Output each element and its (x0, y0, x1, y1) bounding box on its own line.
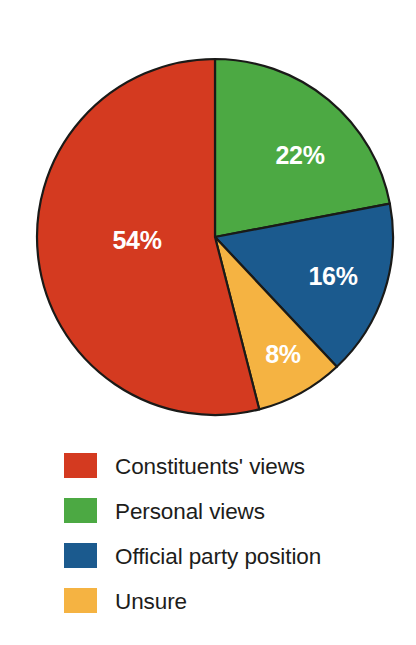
pie-label-official-party-position: 16% (308, 262, 357, 290)
pie-label-constituents-views: 54% (112, 226, 161, 254)
legend-label-personal-views: Personal views (115, 489, 265, 534)
legend-label-unsure: Unsure (115, 579, 187, 624)
chart-legend: Constituents' views Personal views Offic… (0, 440, 416, 645)
pie-label-personal-views: 22% (275, 141, 324, 169)
legend-label-constituents-views: Constituents' views (115, 444, 305, 489)
legend-item-official-party-position[interactable]: Official party position (0, 534, 416, 579)
legend-swatch-red (64, 453, 97, 478)
pie-label-unsure: 8% (265, 340, 301, 368)
legend-swatch-blue (64, 543, 97, 568)
pie-chart-figure: 22% 16% 8% 54% Constituents' views Perso… (0, 0, 416, 645)
legend-item-constituents-views[interactable]: Constituents' views (0, 444, 416, 489)
legend-item-personal-views[interactable]: Personal views (0, 489, 416, 534)
legend-item-unsure[interactable]: Unsure (0, 579, 416, 624)
legend-label-official-party-position: Official party position (115, 534, 321, 579)
pie-chart-svg: 22% 16% 8% 54% (0, 0, 416, 440)
pie-slices (37, 59, 393, 415)
legend-swatch-orange (64, 588, 97, 613)
pie-chart-plot-area: 22% 16% 8% 54% (0, 0, 416, 440)
legend-swatch-green (64, 498, 97, 523)
